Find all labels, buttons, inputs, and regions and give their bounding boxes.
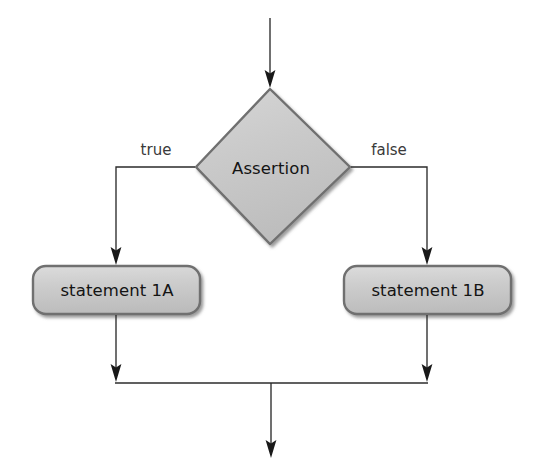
edge-false: false bbox=[351, 141, 432, 265]
edge-merge-left bbox=[111, 315, 122, 382]
statement-1a-node[interactable]: statement 1A bbox=[33, 266, 200, 314]
statement-1b-label: statement 1B bbox=[371, 281, 484, 300]
edge-exit bbox=[266, 383, 277, 458]
statement-1b-node[interactable]: statement 1B bbox=[344, 266, 511, 314]
flowchart-canvas: Assertion true false statement 1A statem… bbox=[0, 0, 536, 474]
true-edge-label: true bbox=[141, 141, 172, 159]
flowchart-svg: Assertion true false statement 1A statem… bbox=[0, 0, 536, 474]
edge-true: true bbox=[111, 141, 195, 265]
false-branch-line bbox=[351, 167, 427, 255]
edge-merge-right bbox=[422, 315, 433, 382]
decision-node[interactable]: Assertion bbox=[196, 89, 350, 244]
false-edge-label: false bbox=[371, 141, 407, 159]
true-branch-line bbox=[116, 167, 195, 255]
edge-entry bbox=[265, 18, 276, 88]
decision-label: Assertion bbox=[232, 159, 310, 178]
statement-1a-label: statement 1A bbox=[60, 281, 174, 300]
